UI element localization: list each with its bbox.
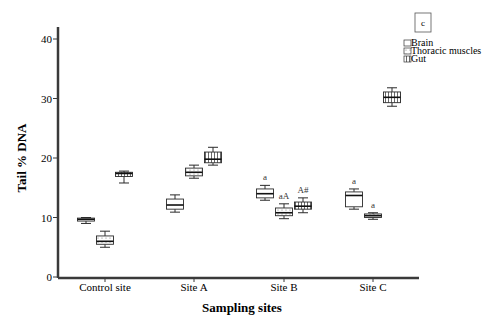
legend-label: Gut [411, 53, 426, 64]
box-thoracic-muscles [365, 213, 382, 220]
x-category-label: Site A [180, 281, 207, 293]
legend: BrainThoracic musclesGut [404, 37, 481, 64]
y-tick-label: 0 [47, 271, 53, 283]
significance-label: A# [298, 185, 309, 195]
legend-swatch [404, 56, 411, 62]
x-axis: Control siteSite ASite BSite C [58, 278, 419, 293]
box-brain [346, 189, 363, 209]
significance-label: a [263, 172, 267, 182]
box-gut [116, 171, 133, 183]
box-gut [384, 88, 401, 106]
panel-label: c [421, 18, 425, 28]
box-brain [257, 185, 274, 200]
box-plots [78, 88, 401, 247]
y-tick-label: 30 [41, 93, 53, 105]
box-gut [295, 198, 312, 213]
box-gut [205, 147, 222, 165]
x-category-label: Site C [359, 281, 386, 293]
significance-label: a [352, 176, 356, 186]
significance-label: a [371, 200, 375, 210]
boxplot-chart: 010203040 Control siteSite ASite BSite C… [0, 0, 498, 328]
y-tick-label: 40 [41, 33, 53, 45]
box-thoracic-muscles [97, 231, 114, 247]
box-thoracic-muscles [186, 165, 203, 178]
box-thoracic-muscles [276, 204, 293, 219]
y-axis: 010203040 [41, 27, 58, 283]
y-tick-label: 20 [41, 152, 53, 164]
x-category-label: Control site [79, 281, 131, 293]
box-brain [167, 195, 184, 212]
y-tick-label: 10 [41, 212, 53, 224]
x-axis-title: Sampling sites [202, 300, 282, 315]
legend-swatch [404, 40, 411, 46]
box-brain [78, 218, 95, 224]
panel-label-box: c [415, 13, 431, 32]
legend-swatch [404, 48, 411, 54]
x-category-label: Site B [270, 281, 297, 293]
y-axis-title: Tail % DNA [14, 123, 29, 192]
significance-label: aA [279, 191, 290, 201]
